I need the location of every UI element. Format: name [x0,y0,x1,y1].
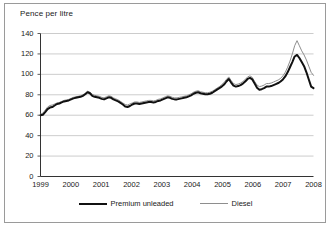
x-tick-label: 2001 [86,181,116,189]
y-tick-label: 140 [12,30,34,38]
legend-label-premium-unleaded: Premium unleaded [111,199,174,208]
x-tick-label: 2000 [56,181,86,189]
x-tick-label: 1999 [26,181,56,189]
legend-label-diesel: Diesel [232,199,253,208]
y-tick-label: 20 [12,152,34,160]
chart-figure: Pence per litre 020406080100120140 19992… [0,0,331,227]
series-line-diesel [41,41,314,115]
x-tick-label: 2008 [299,181,329,189]
plot-area: 020406080100120140 199920002001200220032… [0,0,331,227]
legend-line-icon-premium-unleaded [79,203,107,205]
y-tick-label: 120 [12,50,34,58]
x-tick-label: 2004 [177,181,207,189]
y-tick-label: 0 [12,173,34,181]
legend-line-icon-diesel [200,203,228,204]
legend-item-diesel: Diesel [200,199,253,208]
axis-lines [41,34,314,177]
gridlines [41,34,314,157]
series-lines [41,41,314,116]
series-line-premium-unleaded [41,55,314,115]
y-tick-label: 100 [12,70,34,78]
x-tick-label: 2007 [268,181,298,189]
legend-item-premium-unleaded: Premium unleaded [79,199,174,208]
y-tick-label: 60 [12,111,34,119]
x-tick-label: 2002 [117,181,147,189]
y-tick-label: 40 [12,132,34,140]
x-tick-label: 2006 [238,181,268,189]
y-tick-label: 80 [12,91,34,99]
chart-legend: Premium unleaded Diesel [0,199,331,208]
chart-svg [0,0,331,227]
x-tick-label: 2003 [147,181,177,189]
x-tick-label: 2005 [208,181,238,189]
